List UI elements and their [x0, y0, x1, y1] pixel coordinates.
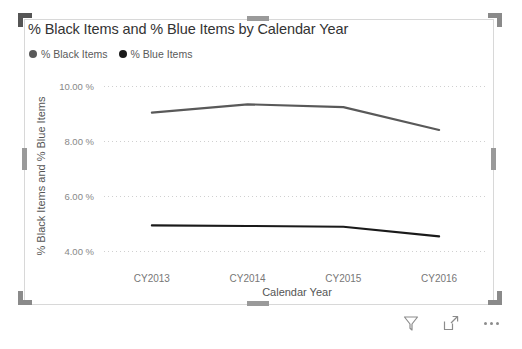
resize-handle-top-left[interactable]	[18, 13, 32, 27]
legend-swatch-black-items	[29, 50, 37, 58]
resize-handle-left[interactable]	[22, 148, 27, 170]
chart-title: % Black Items and % Blue Items by Calend…	[28, 21, 348, 37]
legend-label-blue-items: % Blue Items	[131, 48, 193, 60]
legend-item-black-items[interactable]: % Black Items	[29, 48, 108, 60]
visual-selection-frame	[24, 19, 494, 305]
legend-item-blue-items[interactable]: % Blue Items	[119, 48, 193, 60]
visual-footer-toolbar	[400, 312, 502, 334]
focus-mode-icon[interactable]	[440, 312, 462, 334]
resize-handle-bottom-right[interactable]	[488, 291, 502, 305]
resize-handle-right[interactable]	[491, 148, 496, 170]
line-chart-visual[interactable]: % Black Items and % Blue Items by Calend…	[0, 0, 522, 349]
legend-swatch-blue-items	[119, 50, 127, 58]
ellipsis-dot-2	[490, 322, 493, 325]
more-options-icon[interactable]	[480, 312, 502, 334]
ellipsis-dot-1	[484, 322, 487, 325]
resize-handle-top[interactable]	[247, 16, 269, 21]
resize-handle-bottom-left[interactable]	[18, 291, 32, 305]
ellipsis-dot-3	[496, 322, 499, 325]
resize-handle-top-right[interactable]	[488, 13, 502, 27]
resize-handle-bottom[interactable]	[247, 301, 269, 306]
filter-icon[interactable]	[400, 312, 422, 334]
legend-label-black-items: % Black Items	[41, 48, 108, 60]
chart-legend: % Black Items % Blue Items	[29, 48, 192, 60]
